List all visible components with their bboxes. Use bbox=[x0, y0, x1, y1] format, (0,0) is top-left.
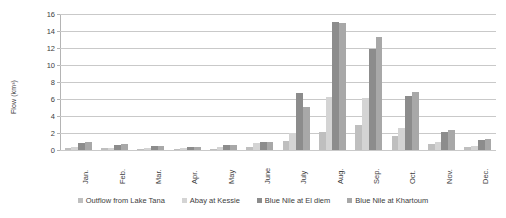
x-tick-label: Sep. bbox=[372, 169, 381, 184]
plot-area: 0246810121416 bbox=[60, 14, 496, 150]
bar-group bbox=[101, 14, 128, 150]
bar bbox=[355, 125, 362, 150]
bar bbox=[362, 98, 369, 150]
y-tick-label: 16 bbox=[47, 10, 55, 19]
y-tick-label: 6 bbox=[51, 95, 55, 104]
bar bbox=[296, 93, 303, 150]
y-tick-mark bbox=[57, 133, 60, 134]
y-tick-mark bbox=[57, 65, 60, 66]
bar bbox=[412, 92, 419, 150]
legend-swatch-icon bbox=[347, 198, 352, 203]
bar bbox=[435, 142, 442, 150]
legend-swatch-icon bbox=[78, 198, 83, 203]
legend-label: Blue Nile at Khartoum bbox=[355, 196, 428, 205]
bar bbox=[398, 128, 405, 150]
x-tick-label: Jan. bbox=[81, 170, 90, 184]
x-tick-label: Aug. bbox=[336, 169, 345, 184]
bar bbox=[283, 141, 290, 150]
x-tick-label: Nov. bbox=[445, 169, 454, 184]
y-tick-label: 8 bbox=[51, 78, 55, 87]
bar bbox=[339, 23, 346, 150]
bar bbox=[85, 142, 92, 150]
y-tick-label: 10 bbox=[47, 61, 55, 70]
bar-group bbox=[464, 14, 491, 150]
bar-group bbox=[428, 14, 455, 150]
y-tick-label: 0 bbox=[51, 146, 55, 155]
y-tick-mark bbox=[57, 82, 60, 83]
bar bbox=[369, 49, 376, 150]
legend-item[interactable]: Blue Nile at Khartoum bbox=[347, 196, 428, 205]
bar-group bbox=[319, 14, 346, 150]
bar bbox=[448, 130, 455, 150]
y-tick-label: 4 bbox=[51, 112, 55, 121]
bar-group bbox=[65, 14, 92, 150]
bar bbox=[478, 140, 485, 150]
y-tick-label: 14 bbox=[47, 27, 55, 36]
bar bbox=[260, 142, 267, 151]
y-tick-label: 2 bbox=[51, 129, 55, 138]
legend-label: Abay at Kessie bbox=[190, 196, 240, 205]
bar bbox=[405, 96, 412, 150]
bar bbox=[267, 142, 274, 150]
bar bbox=[376, 37, 383, 150]
bar-group bbox=[137, 14, 164, 150]
bar bbox=[253, 143, 260, 150]
bar-group bbox=[210, 14, 237, 150]
bar-group bbox=[246, 14, 273, 150]
bar bbox=[485, 139, 492, 150]
x-tick-label: Oct. bbox=[408, 170, 417, 184]
bar bbox=[289, 133, 296, 150]
x-tick-label: Mar. bbox=[154, 169, 163, 184]
bar bbox=[303, 107, 310, 150]
bar-group bbox=[283, 14, 310, 150]
x-axis-tick-labels: Jan.Feb.Mar.Apr.MayJuneJulyAug.Sep.Oct.N… bbox=[60, 150, 496, 190]
legend-swatch-icon bbox=[182, 198, 187, 203]
y-tick-mark bbox=[57, 48, 60, 49]
x-tick-label: Feb. bbox=[118, 169, 127, 184]
bar bbox=[319, 132, 326, 150]
bar bbox=[332, 22, 339, 150]
legend-item[interactable]: Abay at Kessie bbox=[182, 196, 240, 205]
y-tick-mark bbox=[57, 14, 60, 15]
y-tick-label: 12 bbox=[47, 44, 55, 53]
x-tick-label: June bbox=[263, 168, 272, 184]
bar-chart: Flow (km³) 0246810121416 Jan.Feb.Mar.Apr… bbox=[0, 0, 506, 218]
bar bbox=[441, 132, 448, 150]
bar-group bbox=[392, 14, 419, 150]
y-tick-mark bbox=[57, 99, 60, 100]
legend-swatch-icon bbox=[257, 198, 262, 203]
chart-legend: Outflow from Lake TanaAbay at KessieBlue… bbox=[0, 196, 506, 205]
y-tick-mark bbox=[57, 116, 60, 117]
x-tick-label: Apr. bbox=[190, 171, 199, 184]
bar bbox=[326, 97, 333, 150]
y-axis-title: Flow (km³) bbox=[10, 62, 24, 132]
bar-group bbox=[174, 14, 201, 150]
y-tick-mark bbox=[57, 31, 60, 32]
bar bbox=[78, 143, 85, 150]
legend-label: Outflow from Lake Tana bbox=[86, 196, 165, 205]
legend-item[interactable]: Blue Nile at El diem bbox=[257, 196, 330, 205]
x-tick-label: Dec. bbox=[481, 169, 490, 184]
bar-group bbox=[355, 14, 382, 150]
bar bbox=[392, 136, 399, 150]
x-tick-label: May bbox=[227, 170, 236, 184]
x-tick-label: July bbox=[299, 171, 308, 184]
legend-label: Blue Nile at El diem bbox=[265, 196, 330, 205]
legend-item[interactable]: Outflow from Lake Tana bbox=[78, 196, 165, 205]
